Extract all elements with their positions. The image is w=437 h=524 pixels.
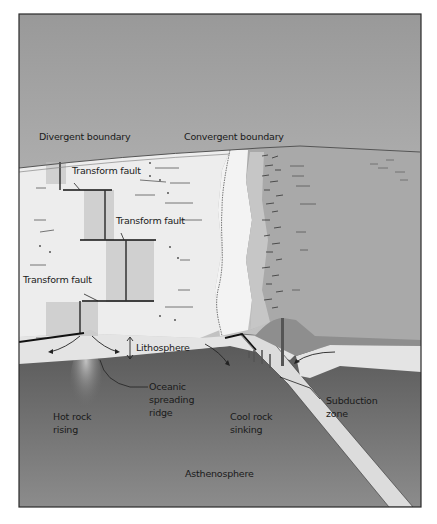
label-subduction-1: Subduction xyxy=(326,394,378,407)
label-asthenosphere: Asthenosphere xyxy=(185,467,254,480)
label-lithosphere: Lithosphere xyxy=(136,341,190,354)
label-cool-rock-2: sinking xyxy=(230,423,262,436)
label-cool-rock-1: Cool rock xyxy=(230,410,272,423)
label-divergent-boundary: Divergent boundary xyxy=(39,130,130,143)
label-oceanic-ridge-1: Oceanic xyxy=(149,380,186,393)
label-oceanic-ridge-3: ridge xyxy=(149,406,172,419)
label-transform-fault-2: Transform fault xyxy=(116,214,185,227)
label-hot-rock-2: rising xyxy=(53,423,78,436)
label-convergent-boundary: Convergent boundary xyxy=(184,130,284,143)
magma-conduit xyxy=(281,318,284,366)
continent xyxy=(246,146,421,340)
plate-tectonics-diagram xyxy=(0,0,437,524)
label-hot-rock-1: Hot rock xyxy=(53,410,91,423)
label-oceanic-ridge-2: spreading xyxy=(149,393,194,406)
label-transform-fault-3: Transform fault xyxy=(23,273,92,286)
label-subduction-2: zone xyxy=(326,407,348,420)
label-transform-fault-1: Transform fault xyxy=(72,164,141,177)
